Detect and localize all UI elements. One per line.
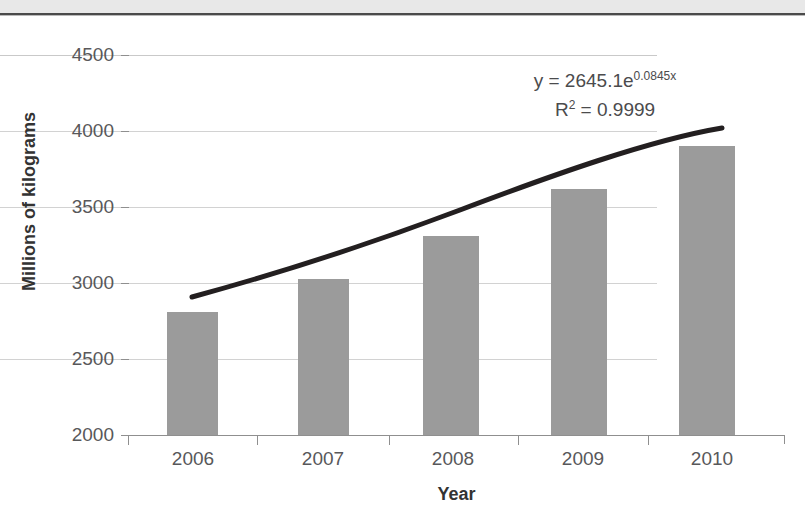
xtick-label-2010: 2010 bbox=[657, 448, 767, 470]
x-axis-line bbox=[128, 435, 785, 436]
r-squared-value: = 0.9999 bbox=[575, 99, 655, 120]
xtick-label-2006: 2006 bbox=[138, 448, 248, 470]
equation-line: y = 2645.1e0.0845x bbox=[480, 66, 730, 95]
ytick-label-3000: 3000 bbox=[54, 272, 114, 294]
ytick-label-3500: 3500 bbox=[54, 196, 114, 218]
xtick-mark-1 bbox=[257, 436, 258, 445]
bar-2007 bbox=[298, 279, 349, 435]
x-axis-end-cap bbox=[784, 435, 785, 444]
xtick-mark-4 bbox=[648, 436, 649, 445]
xtick-mark-0 bbox=[128, 436, 129, 445]
equation-exponent: 0.0845x bbox=[634, 69, 677, 83]
ytick-label-2500: 2500 bbox=[54, 348, 114, 370]
bar-2008 bbox=[423, 236, 479, 435]
trendline-equation-annotation: y = 2645.1e0.0845x R2 = 0.9999 bbox=[480, 66, 730, 125]
xtick-label-2008: 2008 bbox=[398, 448, 508, 470]
x-axis-title: Year bbox=[128, 484, 785, 505]
bar-2006 bbox=[167, 312, 218, 435]
ytick-label-4500: 4500 bbox=[54, 44, 114, 66]
bar-2009 bbox=[551, 189, 607, 435]
equation-prefix: y = 2645.1e bbox=[534, 70, 634, 91]
bar-2010 bbox=[679, 146, 735, 435]
scan-top-band bbox=[0, 0, 805, 13]
ytick-label-4000: 4000 bbox=[54, 120, 114, 142]
xtick-label-2007: 2007 bbox=[268, 448, 378, 470]
xtick-mark-3 bbox=[518, 436, 519, 445]
ytick-label-2000: 2000 bbox=[54, 424, 114, 446]
xtick-mark-2 bbox=[389, 436, 390, 445]
chart-figure: 4500 4000 3500 3000 2500 2000 2006 2007 … bbox=[0, 16, 805, 521]
r-squared-line: R2 = 0.9999 bbox=[480, 95, 730, 124]
xtick-label-2009: 2009 bbox=[528, 448, 638, 470]
r-squared-label: R bbox=[555, 99, 569, 120]
y-axis-title: Millions of kilograms bbox=[19, 87, 40, 317]
